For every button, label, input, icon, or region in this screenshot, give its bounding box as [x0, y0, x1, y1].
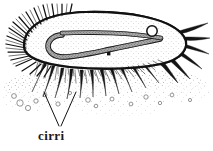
ciliate-drawing — [0, 0, 213, 151]
figure-canvas: cirri — [0, 0, 213, 151]
contractile-vacuole — [147, 26, 157, 36]
cirri-label: cirri — [38, 128, 65, 144]
micronucleus — [107, 52, 110, 55]
